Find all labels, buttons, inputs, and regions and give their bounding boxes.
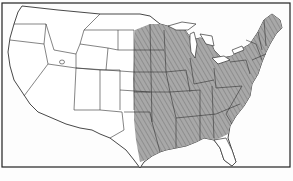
florida	[214, 138, 236, 166]
us-map-svg	[0, 0, 293, 181]
great-salt-lake	[60, 60, 65, 64]
us-map	[0, 0, 293, 181]
